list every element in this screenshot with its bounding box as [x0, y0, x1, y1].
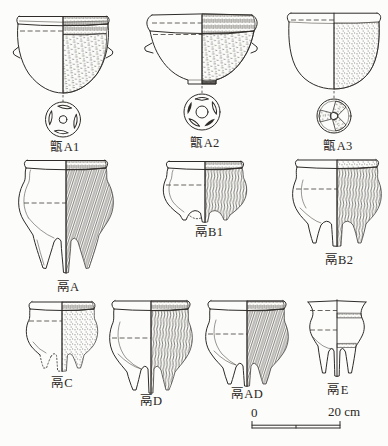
- vessel-label-li-e: 鬲E: [308, 383, 368, 397]
- li-c-drawing: [24, 298, 102, 374]
- scale-bar-start-label: 0: [251, 406, 258, 420]
- scale-bar-end-label: 20 cm: [328, 405, 360, 419]
- zeng-a1-drawing: [12, 14, 116, 140]
- zeng-a2-drawing: [142, 12, 258, 136]
- vessel-label-li-d: 鬲D: [121, 394, 181, 408]
- vessel-label-zeng-a3: 甑A3: [308, 139, 368, 153]
- li-b1-drawing: [160, 160, 256, 224]
- vessel-label-zeng-a2: 甑A2: [175, 136, 235, 150]
- li-a-drawing: [16, 158, 116, 278]
- scale-bar: [250, 420, 342, 430]
- zeng-a1-base-view: [46, 102, 81, 137]
- vessel-label-li-a: 鬲A: [38, 280, 98, 294]
- li-d-drawing: [104, 298, 198, 394]
- li-e-drawing: [300, 298, 378, 380]
- zeng-a2-base-view: [184, 94, 220, 130]
- figure-canvas: 甑A1 甑A2 甑A3 鬲A 鬲B1 鬲B2 鬲C 鬲D 鬲AD 鬲E 0 20…: [0, 0, 388, 446]
- vessel-label-zeng-a1: 甑A1: [35, 140, 95, 154]
- li-b2-drawing: [291, 158, 383, 250]
- zeng-a3-base-view: [317, 99, 351, 133]
- vessel-label-li-c: 鬲C: [32, 376, 92, 390]
- vessel-label-li-b1: 鬲B1: [177, 225, 241, 239]
- vessel-label-li-ad: 鬲AD: [217, 387, 277, 401]
- zeng-a3-drawing: [286, 12, 382, 138]
- li-ad-drawing: [202, 298, 294, 388]
- vessel-label-li-b2: 鬲B2: [309, 253, 369, 267]
